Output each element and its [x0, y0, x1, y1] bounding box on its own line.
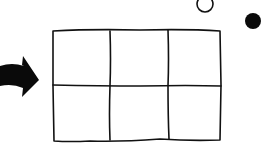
curved-arrow-icon — [0, 56, 39, 97]
open-circle — [197, 0, 213, 12]
diagram-canvas — [0, 0, 263, 149]
grid-col-divider-1 — [110, 31, 111, 140]
grid-row-divider — [53, 85, 221, 86]
grid-col-divider-2 — [168, 30, 169, 139]
filled-circle — [245, 13, 261, 29]
grid — [53, 30, 221, 142]
